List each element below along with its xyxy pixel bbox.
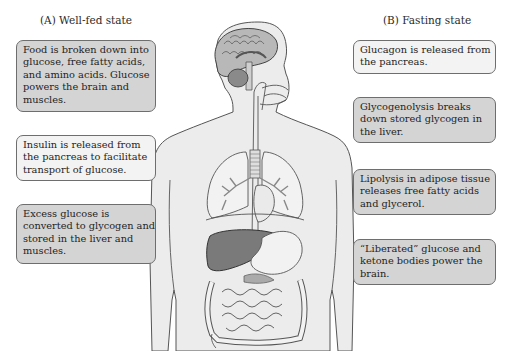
box-text-line: releases free fatty acids <box>360 185 489 197</box>
fasting-box-ketone-bodies: “Liberated” glucose and ketone bodies po… <box>353 239 496 285</box>
box-text-line: Lipolysis in adipose tissue <box>360 173 489 185</box>
box-text-line: Excess glucose is <box>23 208 149 220</box>
box-text-line: Insulin is released from <box>23 139 149 151</box>
fasting-box-lipolysis: Lipolysis in adipose tissue releases fre… <box>353 169 496 215</box>
cerebellum <box>228 69 248 87</box>
box-text-line: brain. <box>360 268 489 280</box>
box-text-line: the pancreas. <box>360 56 489 68</box>
box-text-line: and amino acids. Glucose <box>23 69 149 81</box>
box-text-line: converted to glycogen and <box>23 220 149 232</box>
box-text-line: the pancreas to facilitate <box>23 151 149 163</box>
box-text-line: Glycogenolysis breaks <box>360 101 489 113</box>
box-text-line: “Liberated” glucose and <box>360 243 489 255</box>
box-text-line: Food is broken down into <box>23 44 149 56</box>
box-text-line: Glucagon is released from <box>360 44 489 56</box>
fasting-heading: (B) Fasting state <box>383 14 471 26</box>
box-text-line: ketone bodies power the <box>360 255 489 267</box>
fasting-box-glucagon: Glucagon is released from the pancreas. <box>353 40 496 74</box>
box-text-line: transport of glucose. <box>23 164 149 176</box>
well-fed-box-insulin: Insulin is released from the pancreas to… <box>16 135 156 181</box>
box-text-line: glucose, free fatty acids, <box>23 56 149 68</box>
box-text-line: powers the brain and <box>23 81 149 93</box>
box-text-line: stored in the liver and <box>23 233 149 245</box>
box-text-line: muscles. <box>23 245 149 257</box>
well-fed-heading: (A) Well-fed state <box>40 14 132 26</box>
box-text-line: muscles. <box>23 94 149 106</box>
box-text-line: the liver. <box>360 126 489 138</box>
box-text-line: down stored glycogen in <box>360 113 489 125</box>
well-fed-box-glycogen: Excess glucose is converted to glycogen … <box>16 204 156 264</box>
fasting-box-glycogenolysis: Glycogenolysis breaks down stored glycog… <box>353 97 496 143</box>
box-text-line: and glycerol. <box>360 198 489 210</box>
well-fed-box-digestion: Food is broken down into glucose, free f… <box>16 40 156 112</box>
